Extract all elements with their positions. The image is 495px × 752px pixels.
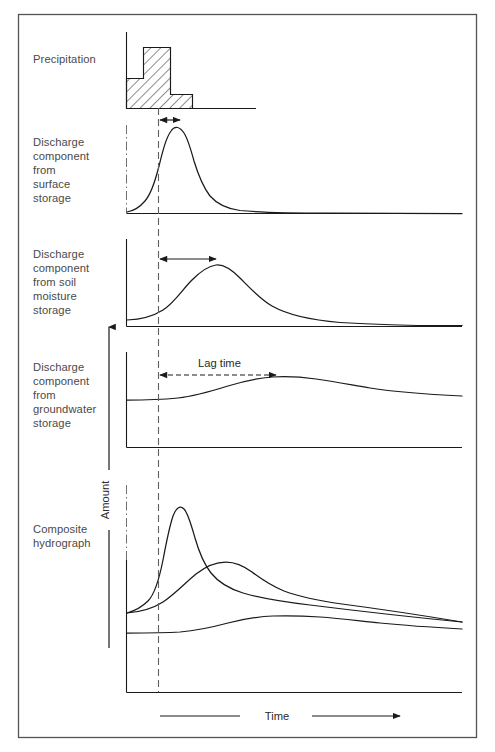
hydrograph-figure: Precipitation Discharge component from s… bbox=[0, 0, 495, 752]
surface-storage-curve bbox=[127, 127, 462, 213]
panel-label-surface-line-1: Discharge bbox=[33, 136, 84, 148]
panel-label-soil-line-1: Discharge bbox=[33, 248, 84, 260]
amount-axis-label: Amount bbox=[99, 480, 111, 519]
panel-precipitation: Precipitation bbox=[33, 32, 256, 109]
amount-axis: Amount bbox=[99, 327, 111, 648]
panel-label-surface-line-2: component bbox=[33, 150, 90, 162]
composite-total-curve bbox=[127, 507, 462, 622]
groundwater-curve bbox=[127, 377, 462, 400]
soil-moisture-curve bbox=[127, 265, 462, 326]
panel-label-soil-line-4: moisture bbox=[33, 290, 77, 302]
panel-groundwater-storage: Lag time Discharge component from ground… bbox=[33, 352, 462, 448]
panel-label-composite-line-1: Composite bbox=[33, 523, 87, 535]
composite-groundwater-curve bbox=[127, 616, 462, 633]
time-axis-label: Time bbox=[265, 710, 289, 722]
panel-label-groundwater-line-1: Discharge bbox=[33, 361, 84, 373]
panel-soil-moisture-storage: Discharge component from soil moisture s… bbox=[33, 239, 462, 327]
hydrograph-diagram-canvas: Precipitation Discharge component from s… bbox=[0, 0, 495, 752]
panel-surface-storage: Discharge component from surface storage bbox=[33, 120, 462, 214]
panel-label-groundwater-line-2: component bbox=[33, 375, 90, 387]
precipitation-bars bbox=[127, 48, 193, 109]
panel-label-surface-line-5: storage bbox=[33, 192, 71, 204]
panel-label-soil-line-5: storage bbox=[33, 304, 71, 316]
panel-label-surface-line-3: from bbox=[33, 164, 56, 176]
lag-time-label: Lag time bbox=[198, 357, 241, 369]
panel-label-composite-line-2: hydrograph bbox=[33, 537, 91, 549]
panel-label-surface-line-4: surface bbox=[33, 178, 70, 190]
panel-label-precipitation: Precipitation bbox=[33, 53, 96, 65]
panel-label-soil-line-2: component bbox=[33, 262, 90, 274]
panel-label-groundwater-line-3: from bbox=[33, 389, 56, 401]
time-axis: Time bbox=[160, 710, 400, 722]
panel-composite-hydrograph: Composite hydrograph bbox=[33, 485, 462, 693]
panel-label-groundwater-line-5: storage bbox=[33, 417, 71, 429]
panel-label-groundwater-line-4: groundwater bbox=[33, 403, 96, 415]
panel-label-soil-line-3: from soil bbox=[33, 276, 76, 288]
composite-intermediate-curve bbox=[127, 562, 462, 622]
